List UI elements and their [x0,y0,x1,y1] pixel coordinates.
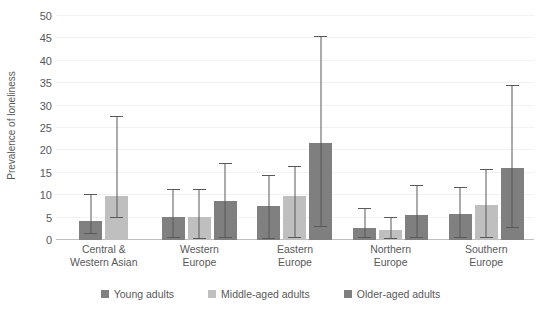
bar-slot [257,16,280,240]
bar-slot [405,16,428,240]
error-bar-cap-top [358,208,371,209]
error-bar [294,166,295,238]
error-bar-cap-bottom [410,237,423,238]
bar-group-bars [152,16,248,240]
y-tick-label: 5 [6,212,52,223]
error-bar-cap-bottom [262,238,275,239]
y-tick-label: 15 [6,167,52,178]
y-axis-tick-labels: 05101520253035404550 [0,16,52,240]
x-tick-label: NorthernEurope [343,243,439,269]
x-tick-label: WesternEurope [152,243,248,269]
x-tick-label-line: Europe [247,256,343,269]
error-bar-cap-top [410,185,423,186]
error-bar-cap-bottom [358,237,371,238]
error-bar-cap-top [506,85,519,86]
bar-slot [214,16,237,240]
x-tick-label-line: Southern [438,243,534,256]
bar-chart: Prevalence of loneliness 051015202530354… [0,0,541,316]
error-bar [116,116,117,218]
error-bar-cap-top [454,187,467,188]
bar-group-bars [56,16,152,240]
bar-slot [449,16,472,240]
error-bar-cap-top [384,217,397,218]
y-tick-label: 30 [6,100,52,111]
bar-slot [309,16,332,240]
bar-group-bars [247,16,343,240]
bar-group [343,16,439,240]
legend-item[interactable]: Middle-aged adults [208,288,310,300]
error-bar [225,163,226,238]
x-tick-label: EasternEurope [247,243,343,269]
error-bar [173,189,174,238]
error-bar [268,175,269,239]
bar-group [56,16,152,240]
legend-swatch [101,290,109,298]
error-bar-cap-top [167,189,180,190]
error-bar [460,187,461,238]
plot-area [56,16,534,240]
legend-swatch [344,290,352,298]
error-bar-cap-bottom [506,227,519,228]
error-bar-cap-bottom [314,226,327,227]
error-bar-cap-bottom [84,233,97,234]
error-bar-cap-bottom [219,237,232,238]
chart-legend: Young adultsMiddle-aged adultsOlder-aged… [0,288,541,300]
error-bar-cap-bottom [454,237,467,238]
x-tick-label-line: Europe [438,256,534,269]
error-bar-cap-top [84,194,97,195]
y-tick-label: 35 [6,78,52,89]
bar-slot [501,16,524,240]
x-axis-category-labels: Central &Western AsianWesternEuropeEaste… [56,243,534,281]
bar-slot [353,16,376,240]
x-tick-label-line: Central & [56,243,152,256]
y-tick-label: 20 [6,145,52,156]
error-bar [390,217,391,239]
x-tick-label: SouthernEurope [438,243,534,269]
bar-group-bars [343,16,439,240]
x-tick-label-line: Western Asian [56,256,152,269]
x-tick-label-line: Western [152,243,248,256]
error-bar-cap-top [110,116,123,117]
error-bar-cap-top [480,169,493,170]
error-bar-cap-bottom [110,217,123,218]
y-tick-label: 25 [6,123,52,134]
error-bar-cap-top [219,163,232,164]
bar-slot [188,16,211,240]
x-tick-label-line: Eastern [247,243,343,256]
error-bar [320,36,321,227]
x-tick-label-line: Europe [343,256,439,269]
legend-label: Older-aged adults [357,288,440,300]
bar-slot [379,16,402,240]
legend-item[interactable]: Young adults [101,288,174,300]
legend-item[interactable]: Older-aged adults [344,288,440,300]
legend-label: Middle-aged adults [221,288,310,300]
x-tick-label: Central &Western Asian [56,243,152,269]
error-bar-cap-top [288,166,301,167]
error-bar [364,208,365,238]
error-bar-cap-bottom [384,238,397,239]
bar-slot [105,16,128,240]
error-bar [199,189,200,239]
error-bar-cap-bottom [193,238,206,239]
y-tick-label: 40 [6,55,52,66]
y-tick-label: 10 [6,190,52,201]
error-bar [512,85,513,229]
y-tick-label: 50 [6,11,52,22]
error-bar [416,185,417,238]
bar-group [152,16,248,240]
error-bar-cap-bottom [480,237,493,238]
legend-swatch [208,290,216,298]
error-bar-cap-top [262,175,275,176]
bar-slot [162,16,185,240]
bar-group [438,16,534,240]
legend-label: Young adults [114,288,174,300]
error-bar-cap-bottom [288,237,301,238]
y-tick-label: 0 [6,235,52,246]
error-bar-cap-top [314,36,327,37]
error-bar-cap-bottom [167,237,180,238]
bar-group [247,16,343,240]
y-tick-label: 45 [6,33,52,44]
x-tick-label-line: Northern [343,243,439,256]
bar-group-bars [438,16,534,240]
error-bar [90,194,91,233]
